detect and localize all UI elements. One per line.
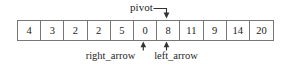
array-cell: 20 (250, 21, 273, 40)
array-cell: 2 (88, 21, 111, 40)
array-cell: 5 (111, 21, 134, 40)
array-cell: 0 (134, 21, 157, 40)
pivot-connector-icon (154, 9, 170, 19)
array-cell: 14 (227, 21, 250, 40)
partition-array: 4 3 2 2 5 0 8 11 9 14 20 (17, 20, 274, 41)
array-cell: 8 (157, 21, 180, 40)
array-cell: 3 (41, 21, 64, 40)
pivot-label: pivot (113, 0, 153, 15)
array-cell: 9 (204, 21, 227, 40)
left-arrow-label: left_arrow (145, 48, 207, 63)
array-cell: 11 (180, 21, 203, 40)
array-cell: 2 (64, 21, 87, 40)
quicksort-partition-figure: pivot 4 3 2 2 5 0 8 11 9 14 20 right_arr… (0, 0, 288, 68)
array-cell: 4 (18, 21, 41, 40)
right-arrow-label: right_arrow (78, 48, 143, 63)
